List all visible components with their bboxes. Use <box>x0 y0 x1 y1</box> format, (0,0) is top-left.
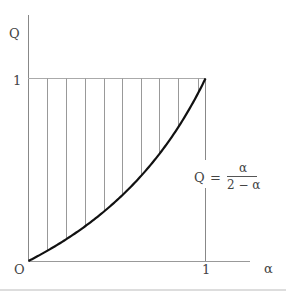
x-tick-label: 1 <box>202 262 210 277</box>
formula-lhs: Q <box>194 170 205 185</box>
diagram-canvas: Q 1 O 1 α Q = α 2 − α <box>0 0 286 293</box>
hatch-lines <box>48 79 199 251</box>
y-tick-label: 1 <box>13 73 21 88</box>
formula: Q = α 2 − α <box>190 160 270 192</box>
formula-denominator: 2 − α <box>227 178 260 192</box>
origin-label: O <box>14 262 25 277</box>
y-axis-label: Q <box>9 26 20 41</box>
x-axis-label: α <box>264 261 273 276</box>
formula-numerator: α <box>239 161 247 175</box>
formula-eq: = <box>210 170 221 185</box>
